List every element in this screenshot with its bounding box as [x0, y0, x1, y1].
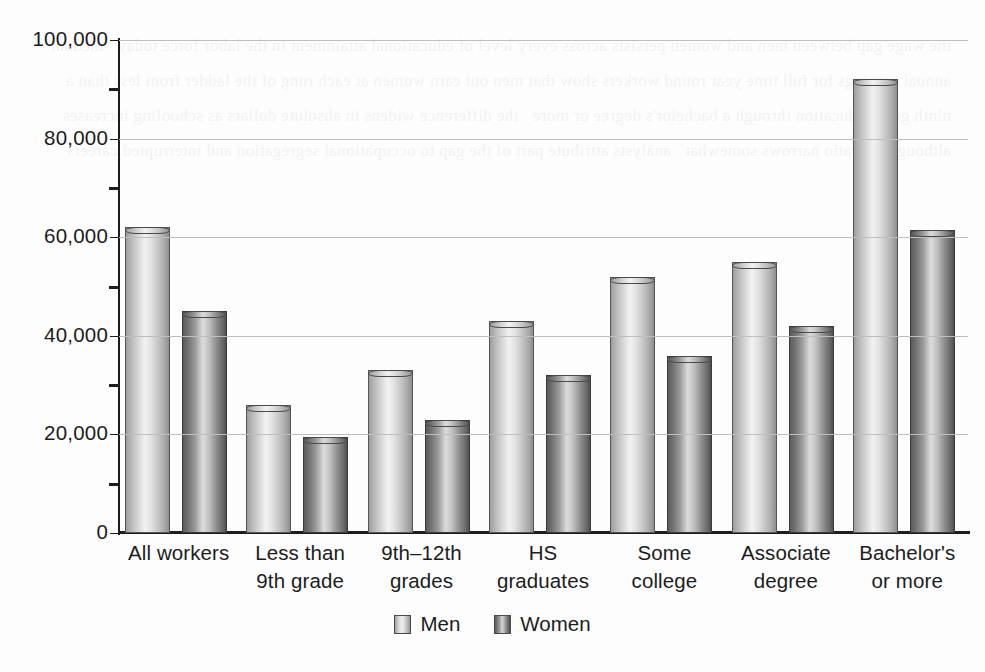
bar-women[interactable]: [789, 326, 834, 533]
y-axis-tick-labels: 020,00040,00060,00080,000100,000: [0, 0, 108, 560]
x-axis-label-line: or more: [847, 567, 968, 595]
y-axis-major-tick: [110, 336, 119, 337]
x-axis-label-line: Bachelor's: [847, 539, 968, 567]
x-axis-category-label: All workers: [118, 539, 239, 567]
x-axis-label-line: grades: [361, 567, 482, 595]
women-swatch-icon: [494, 615, 511, 634]
chart-legend: Men Women: [0, 612, 985, 636]
bar-group: [246, 40, 348, 533]
x-axis-category-labels: All workersLess than9th grade9th–12thgra…: [118, 539, 968, 609]
bar-men[interactable]: [246, 405, 291, 533]
x-axis-label-line: degree: [725, 567, 846, 595]
bar-men[interactable]: [610, 277, 655, 533]
y-axis-minor-tick: [109, 286, 119, 289]
bar-women[interactable]: [910, 230, 955, 533]
x-axis-category-label: Bachelor'sor more: [847, 539, 968, 595]
bar-men[interactable]: [489, 321, 534, 533]
y-axis-minor-tick: [109, 483, 119, 486]
y-axis-tick-label: 60,000: [5, 224, 108, 248]
bar-women[interactable]: [546, 375, 591, 533]
x-axis-label-line: graduates: [482, 567, 603, 595]
x-axis-label-line: HS: [482, 539, 603, 567]
bar-group: [368, 40, 470, 533]
y-axis-minor-tick: [109, 88, 119, 91]
gridline: [118, 336, 968, 337]
x-axis-category-label: Somecollege: [604, 539, 725, 595]
bar-men[interactable]: [125, 227, 170, 533]
legend-label-women: Women: [520, 612, 590, 636]
bar-women[interactable]: [425, 420, 470, 533]
bar-women[interactable]: [303, 437, 348, 533]
bar-series-container: [118, 40, 968, 533]
y-axis-tick-label: 100,000: [5, 27, 108, 51]
y-axis-tick-label: 0: [5, 520, 108, 544]
y-axis-major-tick: [110, 434, 119, 435]
x-axis-category-label: Less than9th grade: [239, 539, 360, 595]
grouped-bar-chart: 020,00040,00060,00080,000100,000 All wor…: [0, 0, 985, 672]
gridline: [118, 139, 968, 140]
bar-men[interactable]: [368, 370, 413, 533]
bar-men[interactable]: [732, 262, 777, 533]
bar-group: [732, 40, 834, 533]
bar-men[interactable]: [853, 79, 898, 533]
y-axis-minor-tick: [109, 384, 119, 387]
y-axis-tick-label: 20,000: [5, 421, 108, 445]
x-axis-category-label: HSgraduates: [482, 539, 603, 595]
bar-group: [125, 40, 227, 533]
x-axis-label-line: 9th–12th: [361, 539, 482, 567]
bar-women[interactable]: [667, 356, 712, 533]
gridline: [118, 434, 968, 435]
gridline: [118, 40, 968, 41]
x-axis-label-line: 9th grade: [239, 567, 360, 595]
x-axis-category-label: 9th–12thgrades: [361, 539, 482, 595]
x-axis-label-line: All workers: [118, 539, 239, 567]
y-axis-major-tick: [110, 139, 119, 140]
bar-group: [489, 40, 591, 533]
x-axis-label-line: Associate: [725, 539, 846, 567]
y-axis-tick-label: 40,000: [5, 323, 108, 347]
y-axis-tick-label: 80,000: [5, 126, 108, 150]
x-axis-category-label: Associatedegree: [725, 539, 846, 595]
legend-item-women[interactable]: Women: [494, 612, 590, 636]
x-axis-label-line: college: [604, 567, 725, 595]
bar-group: [853, 40, 955, 533]
gridline: [118, 237, 968, 238]
legend-label-men: Men: [420, 612, 460, 636]
x-axis-label-line: Some: [604, 539, 725, 567]
y-axis-minor-tick: [109, 187, 119, 190]
men-swatch-icon: [394, 615, 411, 634]
bar-group: [610, 40, 712, 533]
legend-item-men[interactable]: Men: [394, 612, 460, 636]
x-axis-label-line: Less than: [239, 539, 360, 567]
y-axis-major-tick: [110, 40, 119, 41]
y-axis-major-tick: [110, 237, 119, 238]
bar-women[interactable]: [182, 311, 227, 533]
y-axis-major-tick: [110, 533, 119, 534]
